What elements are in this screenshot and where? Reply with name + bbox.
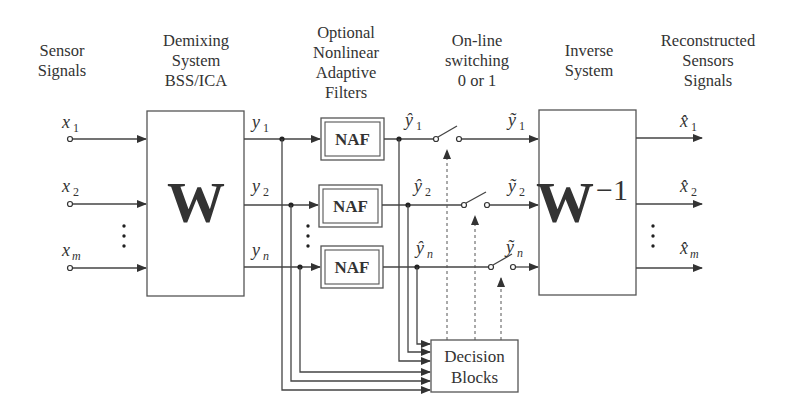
svg-text:Signals: Signals (684, 71, 733, 90)
demixed-output-y2: y2 (244, 176, 318, 208)
svg-text:NAF: NAF (333, 197, 368, 216)
demixed-output-y1: y1 (244, 112, 320, 142)
header-sensor-signals: Sensor Signals (38, 41, 87, 80)
svg-text:On-line: On-line (452, 31, 502, 50)
svg-text:Adaptive: Adaptive (316, 63, 376, 82)
svg-text:Signals: Signals (38, 61, 87, 80)
svg-text:ŷn: ŷn (414, 238, 433, 261)
svg-text:Decision: Decision (444, 347, 505, 366)
header-inverse-system: Inverse System (565, 41, 614, 80)
svg-text:0 or 1: 0 or 1 (458, 71, 497, 90)
svg-text:Reconstructed: Reconstructed (661, 31, 756, 50)
svg-text:W: W (167, 170, 225, 235)
reconstructed-output-xhat2: x̂2 (636, 176, 702, 204)
svg-text:Blocks: Blocks (451, 368, 498, 387)
svg-text:Filters: Filters (325, 83, 367, 102)
svg-text:xm: xm (61, 240, 81, 263)
svg-text:ỹ1: ỹ1 (506, 110, 525, 133)
naf-filter-1: NAF (321, 118, 384, 160)
svg-text:Sensors: Sensors (682, 51, 733, 70)
naf-filter-n: NAF (321, 246, 383, 288)
switched-output-ytilde2: ỹ2 (506, 176, 525, 199)
svg-text:BSS/ICA: BSS/ICA (165, 71, 227, 90)
svg-text:ỹ2: ỹ2 (506, 176, 525, 199)
reconstructed-output-xhat1: x̂1 (636, 111, 702, 138)
switch-control-lines (447, 150, 501, 340)
svg-text:ŷ2: ŷ2 (412, 176, 431, 199)
input-signal-x1: x1 (61, 112, 146, 142)
naf-filter-2: NAF (319, 185, 382, 227)
svg-text:x1: x1 (61, 112, 79, 135)
header-online-switching: On-line switching 0 or 1 (445, 31, 509, 90)
switched-output-ytilden: ỹn (504, 237, 523, 260)
svg-text:Nonlinear: Nonlinear (313, 43, 379, 62)
svg-text:Optional: Optional (317, 23, 375, 42)
switched-output-ytilde1: ỹ1 (506, 110, 525, 133)
svg-text:NAF: NAF (335, 258, 370, 277)
svg-text:x̂2: x̂2 (679, 176, 697, 199)
svg-text:y2: y2 (250, 176, 269, 199)
naf-ellipsis-icon (306, 224, 309, 247)
svg-text:yn: yn (250, 240, 269, 263)
svg-text:y1: y1 (250, 112, 269, 135)
svg-text:ŷ1: ŷ1 (403, 110, 422, 133)
svg-text:x̂1: x̂1 (679, 111, 697, 134)
inverse-block-w-inverse: W−1 (536, 110, 636, 295)
filtered-output-yhat2: ŷ2 (382, 176, 461, 208)
svg-text:Sensor: Sensor (40, 41, 85, 60)
svg-text:Demixing: Demixing (163, 31, 229, 50)
input-ellipsis-icon (122, 224, 125, 247)
svg-text:System: System (172, 51, 221, 70)
decision-blocks: Decision Blocks (431, 340, 518, 392)
svg-text:ỹn: ỹn (504, 237, 523, 260)
demixing-block-w: W (147, 111, 244, 296)
header-optional-naf: Optional Nonlinear Adaptive Filters (313, 23, 379, 102)
input-signal-x2: x2 (61, 176, 146, 207)
filtered-output-yhat1: ŷ1 (384, 110, 433, 142)
bss-ica-block-diagram: Sensor Signals Demixing System BSS/ICA O… (0, 0, 810, 420)
switch-2 (462, 192, 539, 208)
svg-text:NAF: NAF (335, 130, 370, 149)
reconstructed-output-xhatm: x̂m (636, 238, 702, 268)
header-reconstructed-signals: Reconstructed Sensors Signals (661, 31, 756, 90)
svg-text:switching: switching (445, 51, 509, 70)
svg-text:x̂m: x̂m (679, 238, 699, 261)
header-demixing-system: Demixing System BSS/ICA (163, 31, 229, 90)
output-ellipsis-icon (651, 224, 654, 247)
svg-text:System: System (565, 61, 614, 80)
input-signal-xm: xm (61, 240, 146, 271)
svg-text:Inverse: Inverse (565, 41, 614, 60)
svg-text:x2: x2 (61, 176, 79, 199)
